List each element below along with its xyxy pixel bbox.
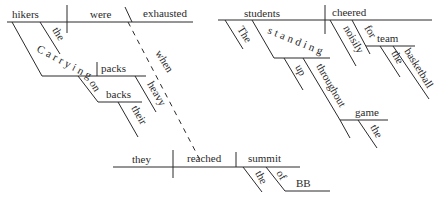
word-preposition-object: game: [355, 106, 379, 118]
preposition-slant-extension: [340, 120, 350, 138]
word-verb: were: [90, 8, 111, 20]
word-object: packs: [101, 62, 126, 74]
word-preposition-object: backs: [106, 88, 131, 100]
word-verb: reached: [187, 152, 222, 164]
sentence-diagram: hikers were exhausted the Carrying packs…: [0, 0, 437, 201]
clause-students-cheered: students cheered The standing up through…: [218, 5, 436, 148]
clause-they-reached-summit: they reached summit the of BB: [113, 150, 330, 192]
word-preposition-object: BB: [296, 177, 311, 189]
complement-divider: [125, 7, 132, 22]
word-preposition-modifier: the: [368, 122, 385, 140]
word-participle: standing: [266, 24, 327, 58]
word-subject-modifier: the: [50, 25, 67, 43]
word-subject: they: [132, 153, 151, 165]
connector-dashed-line: [128, 22, 200, 160]
word-subject: students: [244, 7, 280, 19]
word-complement: exhausted: [143, 7, 187, 19]
word-preposition-object: team: [377, 32, 399, 44]
word-verb: cheered: [332, 6, 367, 18]
clause-hikers-were-exhausted: hikers were exhausted the Carrying packs…: [7, 5, 200, 160]
word-subject: hikers: [12, 8, 39, 20]
word-object: summit: [248, 152, 281, 164]
word-connector: when: [153, 48, 176, 75]
word-preposition-modifier: their: [129, 103, 150, 127]
